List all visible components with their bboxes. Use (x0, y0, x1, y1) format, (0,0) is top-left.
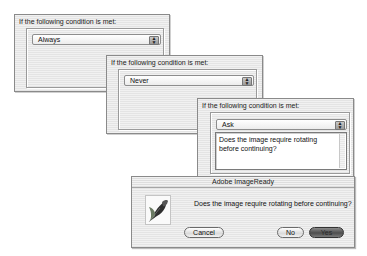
cancel-button-label: Cancel (193, 229, 215, 236)
condition-group-box: Ask ▲▼ Does the image require rotating b… (210, 112, 350, 174)
condition-select-value: Ask (222, 121, 234, 128)
condition-label: If the following condition is met: (202, 102, 299, 109)
dialog-title: Adobe ImageReady (212, 178, 274, 185)
condition-select-value: Never (130, 77, 149, 84)
condition-select-value: Always (38, 36, 60, 43)
textarea-scrollbar[interactable] (339, 134, 345, 168)
updown-arrows-icon: ▲▼ (242, 77, 252, 86)
imageready-feather-icon (145, 195, 171, 225)
condition-panel-ask: If the following condition is met: Ask ▲… (197, 98, 354, 177)
alert-dialog: Adobe ImageReady Does the image require … (131, 176, 355, 248)
no-button[interactable]: No (277, 227, 304, 238)
message-text: Does the image require rotating before c… (219, 135, 331, 153)
yes-button-label: Yes (321, 229, 332, 236)
condition-select[interactable]: Always ▲▼ (32, 34, 161, 45)
condition-select[interactable]: Never ▲▼ (124, 75, 254, 86)
updown-arrows-icon: ▲▼ (149, 36, 159, 45)
condition-select[interactable]: Ask ▲▼ (216, 119, 347, 130)
message-textarea[interactable]: Does the image require rotating before c… (215, 132, 347, 170)
updown-arrows-icon: ▲▼ (335, 121, 345, 130)
cancel-button[interactable]: Cancel (184, 227, 224, 238)
dialog-message: Does the image require rotating before c… (194, 200, 352, 207)
condition-label: If the following condition is met: (111, 59, 208, 66)
no-button-label: No (286, 229, 295, 236)
yes-button[interactable]: Yes (309, 227, 344, 238)
condition-label: If the following condition is met: (19, 18, 116, 25)
dialog-titlebar[interactable]: Adobe ImageReady (132, 177, 354, 188)
